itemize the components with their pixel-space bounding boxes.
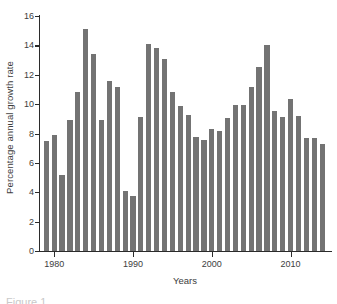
y-tick-label: 14 bbox=[24, 41, 34, 50]
bar bbox=[107, 81, 112, 251]
y-tick-label: 4 bbox=[29, 188, 34, 197]
y-tick-label: 6 bbox=[29, 158, 34, 167]
x-tick-mark bbox=[133, 252, 134, 257]
bar bbox=[67, 120, 72, 251]
bar bbox=[201, 140, 206, 251]
bar bbox=[217, 131, 222, 251]
bar bbox=[312, 138, 317, 251]
bar bbox=[91, 54, 96, 251]
bar bbox=[272, 111, 277, 251]
x-axis-title: Years bbox=[40, 275, 330, 286]
bar bbox=[233, 105, 238, 251]
y-tick-mark bbox=[35, 16, 39, 17]
bars-layer bbox=[40, 16, 330, 251]
bar bbox=[264, 45, 269, 251]
bar bbox=[225, 118, 230, 251]
x-tick-label: 1980 bbox=[44, 259, 64, 269]
bar bbox=[209, 129, 214, 251]
bar bbox=[186, 115, 191, 251]
y-tick-label: 12 bbox=[24, 70, 34, 79]
bar bbox=[170, 92, 175, 251]
y-tick-mark bbox=[35, 192, 39, 193]
bar bbox=[304, 138, 309, 251]
bar bbox=[154, 48, 159, 251]
x-tick-mark bbox=[212, 252, 213, 257]
y-tick-mark bbox=[35, 134, 39, 135]
y-tick-mark bbox=[35, 104, 39, 105]
bar bbox=[115, 87, 120, 252]
x-tick-mark bbox=[291, 252, 292, 257]
bar bbox=[99, 120, 104, 251]
y-tick-label: 2 bbox=[29, 217, 34, 226]
bar bbox=[193, 137, 198, 251]
bar bbox=[162, 59, 167, 251]
x-tick-mark bbox=[54, 252, 55, 257]
y-tick-label: 0 bbox=[29, 247, 34, 256]
bar bbox=[52, 135, 57, 251]
y-tick-mark bbox=[35, 222, 39, 223]
y-tick-label: 8 bbox=[29, 129, 34, 138]
bar bbox=[280, 117, 285, 251]
x-tick-label: 1990 bbox=[123, 259, 143, 269]
bar bbox=[44, 141, 49, 251]
x-tick-label: 2000 bbox=[202, 259, 222, 269]
bar bbox=[75, 92, 80, 251]
x-axis-line bbox=[39, 251, 332, 252]
bar bbox=[138, 117, 143, 251]
y-tick-mark bbox=[35, 45, 39, 46]
bar bbox=[130, 196, 135, 251]
bar bbox=[296, 116, 301, 251]
x-tick-label: 2010 bbox=[281, 259, 301, 269]
bar bbox=[249, 87, 254, 251]
bar bbox=[146, 44, 151, 251]
plot-area bbox=[40, 16, 330, 251]
bar bbox=[59, 175, 64, 251]
y-tick-mark bbox=[35, 163, 39, 164]
bar bbox=[83, 29, 88, 251]
bar bbox=[241, 105, 246, 251]
y-axis-title-text: Percentage annual growth rate bbox=[4, 61, 15, 194]
bar bbox=[256, 67, 261, 251]
y-tick-label: 16 bbox=[24, 12, 34, 21]
bar bbox=[320, 144, 325, 251]
bar bbox=[178, 106, 183, 251]
figure-caption: Figure 1. bbox=[6, 296, 336, 304]
figure-root: Percentage annual growth rate 0246810121… bbox=[0, 0, 337, 304]
bar bbox=[123, 191, 128, 251]
y-tick-label: 10 bbox=[24, 100, 34, 109]
y-tick-mark bbox=[35, 251, 39, 252]
y-axis-title: Percentage annual growth rate bbox=[0, 0, 18, 255]
bar bbox=[288, 99, 293, 251]
y-tick-mark bbox=[35, 75, 39, 76]
